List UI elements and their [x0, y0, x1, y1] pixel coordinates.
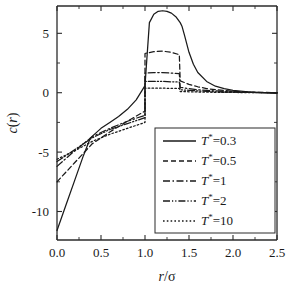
chart-legend: T*=0.3T*=0.5T*=1T*=2T*=10	[155, 128, 275, 233]
y-tick-label: 0	[43, 85, 50, 100]
y-tick-label: -10	[32, 204, 49, 219]
legend-label-1: T*=0.5	[201, 152, 236, 168]
x-tick-label: 0.5	[93, 245, 109, 260]
x-tick-label: 0.0	[49, 245, 65, 260]
legend-label-2: T*=1	[201, 172, 227, 188]
x-tick-label: 2.0	[225, 245, 241, 260]
correlation-function-plot: 0.00.51.01.52.02.550-5-10 T*=0.3T*=0.5T*…	[0, 0, 293, 295]
x-tick-label: 1.5	[181, 245, 197, 260]
y-tick-label: 5	[43, 26, 50, 41]
x-tick-label: 2.5	[269, 245, 285, 260]
legend-label-3: T*=2	[201, 192, 227, 208]
x-tick-label: 1.0	[137, 245, 153, 260]
y-axis-title: c(r)	[5, 112, 21, 133]
legend-label-0: T*=0.3	[201, 132, 236, 148]
x-axis-title: r/σ	[159, 269, 176, 284]
chart-figure: 0.00.51.01.52.02.550-5-10 T*=0.3T*=0.5T*…	[0, 0, 293, 295]
y-tick-label: -5	[38, 145, 49, 160]
legend-label-4: T*=10	[201, 212, 233, 228]
